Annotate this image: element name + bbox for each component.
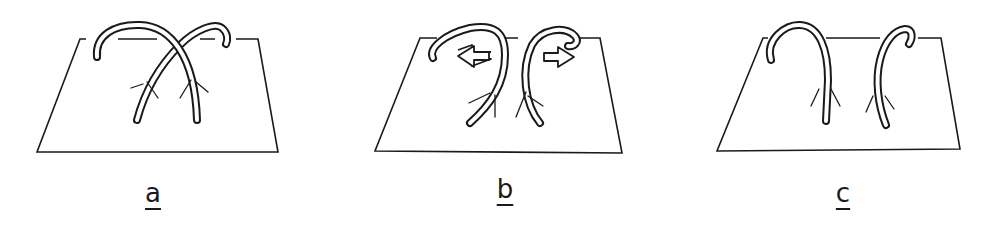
- panel-b: [375, 27, 622, 153]
- panel-label-c: c: [836, 180, 850, 206]
- plane-a: [37, 39, 278, 152]
- panel-a: [37, 25, 278, 152]
- plane-b: [375, 38, 622, 153]
- plane-c: [717, 38, 960, 151]
- panel-label-b: b: [497, 176, 514, 202]
- panel-c: [717, 25, 960, 151]
- panel-label-a: a: [145, 180, 161, 206]
